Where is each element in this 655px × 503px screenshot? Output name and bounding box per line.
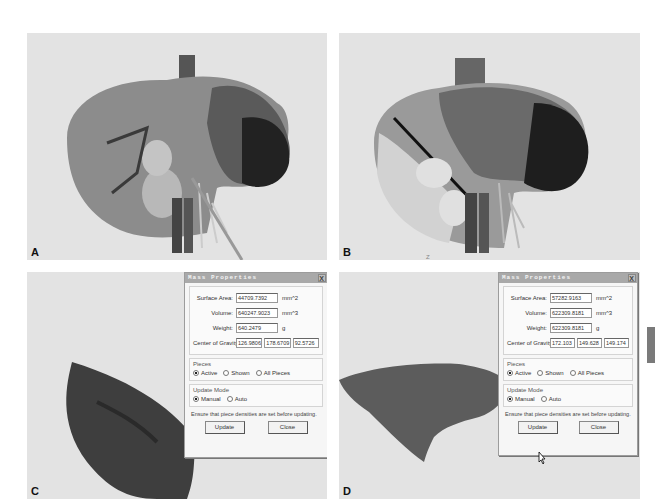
pieces-active-radio[interactable]: Active <box>507 370 531 376</box>
panel-label: B <box>343 246 351 258</box>
update-manual-radio[interactable]: Manual <box>193 396 221 402</box>
volume-field[interactable]: 640247.9023 <box>236 308 278 318</box>
volume-label: Volume: <box>193 310 236 316</box>
pieces-all-radio[interactable]: All Pieces <box>256 370 290 376</box>
dialog-title-bar[interactable]: Mass Properties X <box>185 273 327 283</box>
close-button[interactable]: Close <box>579 421 619 434</box>
panel-d: Mass Properties X Surface Area:57282.916… <box>339 272 640 499</box>
close-icon[interactable]: X <box>318 274 326 282</box>
close-button[interactable]: Close <box>268 421 308 434</box>
update-mode-legend: Update Mode <box>507 387 629 393</box>
volume-unit: mm^3 <box>596 310 612 316</box>
update-auto-radio[interactable]: Auto <box>541 396 561 402</box>
update-auto-radio[interactable]: Auto <box>227 396 247 402</box>
cog-z-field[interactable]: 149.174 <box>604 338 629 348</box>
pieces-legend: Pieces <box>507 361 629 367</box>
pieces-group: Pieces Active Shown All Pieces <box>189 358 323 381</box>
weight-unit: g <box>596 325 599 331</box>
volume-field[interactable]: 622309.8181 <box>550 308 592 318</box>
panel-label: C <box>31 485 39 497</box>
pieces-legend: Pieces <box>193 361 319 367</box>
pieces-shown-radio[interactable]: Shown <box>537 370 563 376</box>
pieces-shown-radio[interactable]: Shown <box>223 370 249 376</box>
update-manual-radio[interactable]: Manual <box>507 396 535 402</box>
weight-label: Weight: <box>193 325 236 331</box>
weight-field[interactable]: 622309.8181 <box>550 323 592 333</box>
pieces-group: Pieces Active Shown All Pieces <box>503 358 633 381</box>
cog-x-field[interactable]: 126.9806 <box>236 338 262 348</box>
surface-area-unit: mm^2 <box>596 295 612 301</box>
update-button[interactable]: Update <box>205 421 245 434</box>
axis-z-marker: Z <box>426 254 430 260</box>
mass-properties-dialog: Mass Properties X Surface Area:57282.916… <box>498 272 638 456</box>
cog-y-field[interactable]: 178.6709 <box>264 338 290 348</box>
measurements-group: Surface Area:44709.7392mm^2 Volume:64024… <box>189 286 323 355</box>
panel-label: A <box>31 246 39 258</box>
density-note: Ensure that piece densities are set befo… <box>505 411 631 417</box>
surface-area-field[interactable]: 57282.9163 <box>550 293 592 303</box>
density-note: Ensure that piece densities are set befo… <box>191 411 321 417</box>
volume-label: Volume: <box>507 310 550 316</box>
surface-area-label: Surface Area: <box>507 295 550 301</box>
mass-properties-dialog: Mass Properties X Surface Area:44709.739… <box>184 272 327 458</box>
volume-unit: mm^3 <box>282 310 298 316</box>
weight-unit: g <box>282 325 285 331</box>
panel-label: D <box>343 485 351 497</box>
panel-b: Z B <box>339 33 640 260</box>
cog-y-field[interactable]: 149.628 <box>577 338 602 348</box>
panel-c: Mass Properties X Surface Area:44709.739… <box>27 272 327 499</box>
measurements-group: Surface Area:57282.9163mm^2 Volume:62230… <box>503 286 633 355</box>
dialog-title-bar[interactable]: Mass Properties X <box>499 273 637 283</box>
cog-z-field[interactable]: 92.5726 <box>293 338 319 348</box>
center-of-gravity-label: Center of Gravity: <box>507 340 550 346</box>
pieces-all-radio[interactable]: All Pieces <box>570 370 604 376</box>
panel-a: A <box>27 33 327 260</box>
weight-field[interactable]: 640.2479 <box>236 323 278 333</box>
pieces-active-radio[interactable]: Active <box>193 370 217 376</box>
center-of-gravity-label: Center of Gravity: <box>193 340 236 346</box>
weight-label: Weight: <box>507 325 550 331</box>
close-icon[interactable]: X <box>628 274 636 282</box>
update-mode-legend: Update Mode <box>193 387 319 393</box>
liver-3d-model[interactable] <box>27 33 327 260</box>
liver-3d-model[interactable] <box>339 33 640 260</box>
update-button[interactable]: Update <box>518 421 558 434</box>
update-mode-group: Update Mode Manual Auto <box>503 384 633 407</box>
page-edge-tab <box>647 327 655 363</box>
dialog-title: Mass Properties <box>502 274 571 281</box>
dialog-title: Mass Properties <box>188 274 257 281</box>
update-mode-group: Update Mode Manual Auto <box>189 384 323 407</box>
surface-area-label: Surface Area: <box>193 295 236 301</box>
surface-area-unit: mm^2 <box>282 295 298 301</box>
mouse-cursor-icon <box>538 452 546 464</box>
surface-area-field[interactable]: 44709.7392 <box>236 293 278 303</box>
cog-x-field[interactable]: 172.103 <box>550 338 575 348</box>
